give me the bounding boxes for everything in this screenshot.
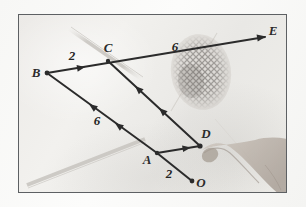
point-labels: B C E A D O — [31, 23, 278, 190]
measure-label-ab: 6 — [94, 113, 101, 128]
measure-label-bc: 2 — [68, 48, 76, 63]
dot-O — [190, 179, 195, 184]
dot-D — [197, 143, 202, 148]
segment-A-to-O — [157, 153, 192, 181]
point-label-B: B — [31, 65, 41, 80]
vector-diagram: B C E A D O 2 6 6 2 — [19, 15, 287, 193]
dot-B — [45, 71, 50, 76]
point-label-E: E — [268, 23, 278, 38]
dot-A — [155, 151, 159, 155]
hand-pointing-icon — [199, 138, 287, 193]
screenshot-root: B C E A D O 2 6 6 2 — [0, 0, 306, 207]
point-label-O: O — [196, 175, 206, 190]
diagram-frame-border: B C E A D O 2 6 6 2 — [18, 14, 287, 193]
measure-label-ao: 2 — [165, 166, 173, 181]
point-label-D: D — [200, 126, 211, 141]
point-label-C: C — [104, 40, 113, 55]
dot-C — [106, 59, 110, 63]
point-label-A: A — [142, 152, 152, 167]
segment-A-to-B — [47, 73, 157, 153]
segment-A-to-D — [157, 146, 200, 153]
measure-label-ce: 6 — [172, 39, 179, 54]
